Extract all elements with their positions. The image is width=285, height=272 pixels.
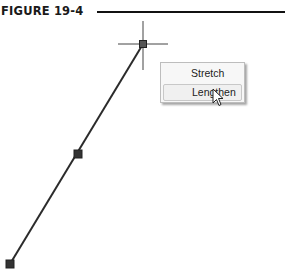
midpoint-grip[interactable] [74,150,82,158]
arrow-pointer-icon [212,88,226,108]
grip-context-menu: Stretch Lengthen [160,62,245,103]
menu-item-lengthen[interactable]: Lengthen [163,84,242,101]
end-grip-bottom[interactable] [6,260,14,268]
menu-item-stretch[interactable]: Stretch [163,65,242,82]
end-grip-top[interactable] [140,41,147,48]
drawing-canvas[interactable] [0,0,285,272]
